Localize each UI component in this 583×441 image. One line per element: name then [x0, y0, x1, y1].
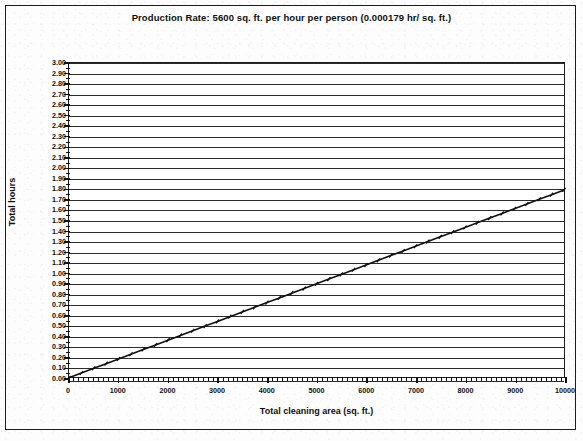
chart-page: Production Rate: 5600 sq. ft. per hour p… — [0, 0, 583, 441]
x-axis-tick-label: 8000 — [458, 386, 474, 395]
y-axis-tick-label: 0.60 — [26, 310, 66, 319]
y-axis-tick-label: 1.20 — [26, 247, 66, 256]
x-axis-tick — [168, 377, 170, 383]
x-axis-tick-label: 9000 — [507, 386, 523, 395]
x-axis-tick — [317, 377, 319, 383]
y-axis-tick-label: 2.60 — [26, 100, 66, 109]
x-axis-tick — [565, 377, 567, 383]
plot-area — [68, 62, 565, 378]
y-axis-tick-label: 2.30 — [26, 131, 66, 140]
y-axis-tick-label: 0.20 — [26, 352, 66, 361]
y-axis-tick-label: 2.90 — [26, 68, 66, 77]
y-axis-tick-label: 1.50 — [26, 216, 66, 225]
y-axis-title: Total hours — [7, 152, 17, 252]
x-axis-tick-label: 6000 — [358, 386, 374, 395]
y-axis-tick-label: 2.10 — [26, 152, 66, 161]
y-axis-tick-label: 1.30 — [26, 237, 66, 246]
x-axis-tick-label: 5000 — [309, 386, 325, 395]
y-axis-tick-label: 1.70 — [26, 194, 66, 203]
x-axis-tick — [516, 377, 518, 383]
y-axis-tick-label: 3.00 — [26, 58, 66, 67]
y-axis-tick-label: 0.00 — [26, 374, 66, 383]
x-axis-tick — [118, 377, 120, 383]
y-axis-tick-label: 1.00 — [26, 268, 66, 277]
x-axis-tick-label: 2000 — [159, 386, 175, 395]
y-axis-tick-label: 1.90 — [26, 173, 66, 182]
y-axis-tick-label: 0.90 — [26, 279, 66, 288]
y-axis-tick-label: 0.50 — [26, 321, 66, 330]
x-axis-tick-label: 10000 — [555, 386, 575, 395]
x-axis-tick-label: 7000 — [408, 386, 424, 395]
x-axis-tick — [217, 377, 219, 383]
y-axis-tick-label: 1.80 — [26, 184, 66, 193]
y-axis-tick-label: 0.40 — [26, 331, 66, 340]
y-axis-tick-label: 1.60 — [26, 205, 66, 214]
y-axis-tick-label: 2.70 — [26, 89, 66, 98]
y-axis-tick-label: 1.40 — [26, 226, 66, 235]
x-axis-tick-label: 1000 — [110, 386, 126, 395]
x-axis-tick-labels: 0100020003000400050006000700080009000100… — [68, 386, 565, 400]
chart-title: Production Rate: 5600 sq. ft. per hour p… — [0, 12, 583, 23]
x-axis-tick-label: 0 — [66, 386, 70, 395]
y-axis-tick-label: 2.20 — [26, 142, 66, 151]
y-axis-tick-label: 0.10 — [26, 363, 66, 372]
data-series-layer — [69, 63, 564, 378]
y-axis-tick-label: 2.50 — [26, 110, 66, 119]
y-axis-tick-label: 0.80 — [26, 289, 66, 298]
x-axis-tick — [366, 377, 368, 383]
y-axis-tick-label: 2.80 — [26, 79, 66, 88]
x-axis-title: Total cleaning area (sq. ft.) — [68, 406, 565, 416]
y-axis-tick-label: 2.00 — [26, 163, 66, 172]
x-axis-tick — [466, 377, 468, 383]
x-axis-tick — [416, 377, 418, 383]
y-axis-tick-labels: 0.000.100.200.300.400.500.600.700.800.90… — [22, 62, 66, 378]
x-axis-tick-label: 4000 — [259, 386, 275, 395]
y-axis-tick-label: 2.40 — [26, 121, 66, 130]
y-axis-tick-label: 0.30 — [26, 342, 66, 351]
x-axis-tick-label: 3000 — [209, 386, 225, 395]
y-axis-tick-label: 0.70 — [26, 300, 66, 309]
y-axis-tick-label: 1.10 — [26, 258, 66, 267]
x-axis-tick — [267, 377, 269, 383]
